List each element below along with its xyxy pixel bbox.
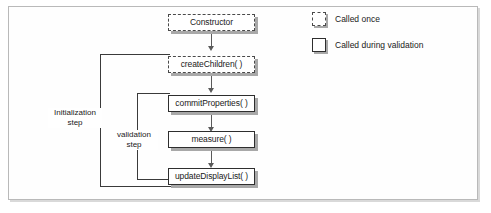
- node-createchildren[interactable]: createChildren( ): [168, 56, 255, 73]
- node-measure[interactable]: measure( ): [168, 131, 255, 148]
- node-constructor-label: Constructor: [190, 18, 233, 27]
- validation-loop-top: [137, 93, 170, 94]
- legend-called-validation-swatch: [312, 38, 326, 52]
- arrow-createchildren-to-commitproperties-head: [208, 88, 214, 93]
- initialization-loop-top: [100, 54, 170, 55]
- validation-step-label: validation step: [110, 130, 158, 150]
- legend-called-once-swatch: [312, 12, 326, 26]
- node-updatedisplaylist-label: updateDisplayList( ): [175, 172, 248, 181]
- legend-called-validation-label: Called during validation: [335, 40, 423, 50]
- node-commitproperties-label: commitProperties( ): [175, 99, 247, 108]
- validation-loop-bottom: [137, 179, 172, 180]
- node-constructor[interactable]: Constructor: [168, 14, 255, 31]
- node-commitproperties[interactable]: commitProperties( ): [168, 95, 255, 112]
- node-createchildren-label: createChildren( ): [181, 60, 243, 69]
- initialization-loop-bottom: [100, 186, 172, 187]
- node-updatedisplaylist[interactable]: updateDisplayList( ): [168, 168, 255, 185]
- arrow-constructor-to-createchildren-head: [208, 46, 214, 51]
- validation-step-line2: step: [126, 140, 141, 149]
- legend-called-once: Called once: [312, 12, 380, 26]
- initialization-step-line2: step: [67, 118, 82, 127]
- legend-called-during-validation: Called during validation: [312, 38, 423, 52]
- lifecycle-diagram: Constructor createChildren( ) commitProp…: [0, 0, 491, 213]
- validation-step-line1: validation: [117, 130, 151, 139]
- initialization-step-label: Initialization step: [48, 108, 102, 128]
- node-measure-label: measure( ): [191, 135, 231, 144]
- legend-called-once-label: Called once: [335, 14, 380, 24]
- initialization-step-line1: Initialization: [54, 108, 96, 117]
